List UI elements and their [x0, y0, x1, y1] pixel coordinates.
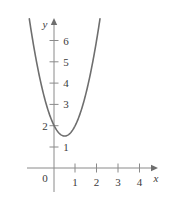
y-tick-label-5: 5	[63, 56, 69, 68]
y-tick-label-3: 3	[63, 98, 69, 110]
x-tick-label-2: 2	[94, 176, 100, 188]
y-axis-label: y	[42, 18, 48, 30]
origin-label: 0	[42, 172, 48, 184]
y-tick-label-1: 1	[63, 141, 69, 153]
y-axis-arrow-icon	[51, 18, 57, 25]
x-axis-label: x	[153, 172, 159, 184]
y-tick-label-6: 6	[63, 35, 69, 47]
plot-canvas: 1 2 3 4 x 1 2 3 4 5 6 y 0	[0, 0, 169, 203]
x-tick-label-1: 1	[72, 176, 78, 188]
y-tick-label-4: 4	[63, 77, 69, 89]
y-tick-label-2: 2	[42, 120, 48, 132]
x-axis-arrow-icon	[151, 165, 158, 171]
x-tick-label-4: 4	[137, 176, 143, 188]
graph-figure: 1 2 3 4 x 1 2 3 4 5 6 y 0	[0, 0, 169, 203]
x-tick-label-3: 3	[115, 176, 121, 188]
